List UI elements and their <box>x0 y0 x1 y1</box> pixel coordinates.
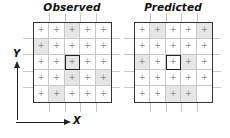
grid-extension-line <box>49 13 50 22</box>
grid-extension-line <box>124 87 134 88</box>
focus-cell: + <box>65 55 80 71</box>
grid-cell: + <box>80 86 95 102</box>
grid-cell: + <box>96 86 111 102</box>
grid-cell: + <box>96 70 111 86</box>
grid-cell: + <box>135 23 150 39</box>
grid-cell: + <box>80 55 95 71</box>
grid-cell: + <box>150 39 165 55</box>
grid-cell: + <box>166 86 181 102</box>
grid-cell: + <box>197 39 212 55</box>
grid-cell: + <box>49 86 64 102</box>
grid-extension-line <box>23 71 33 72</box>
grid-cell: + <box>65 23 80 39</box>
grid-cell: + <box>96 55 111 71</box>
grid-cell: + <box>135 86 150 102</box>
grid-extension-line <box>80 13 81 22</box>
grid-extension-line <box>213 38 221 39</box>
grid-cell: + <box>181 55 196 71</box>
grid-extension-line <box>23 87 33 88</box>
grid-cell: + <box>80 23 95 39</box>
grid-extension-line <box>197 13 198 22</box>
observed-title: Observed <box>27 1 117 13</box>
grid-cell: + <box>181 86 196 102</box>
grid-cell: + <box>34 86 49 102</box>
grid-extension-line <box>166 103 167 112</box>
grid-cell: + <box>49 39 64 55</box>
grid-cell: + <box>181 70 196 86</box>
grid-extension-line <box>166 13 167 22</box>
grid-cell: + <box>181 39 196 55</box>
predicted-grid: ++++++++++++++++++++++++ <box>134 22 213 103</box>
grid-cell: + <box>34 23 49 39</box>
grid-extension-line <box>124 71 134 72</box>
grid-cell: + <box>34 70 49 86</box>
grid-cell: + <box>34 55 49 71</box>
grid-cell: + <box>49 55 64 71</box>
grid-extension-line <box>150 13 151 22</box>
x-axis-label: X <box>73 115 81 126</box>
y-axis-arrow <box>17 66 18 120</box>
x-arrowhead-icon <box>64 119 71 125</box>
grid-extension-line <box>112 38 120 39</box>
grid-cell: + <box>135 39 150 55</box>
grid-extension-line <box>96 103 97 112</box>
grid-cell: + <box>197 70 212 86</box>
grid-extension-line <box>65 103 66 112</box>
grid-extension-line <box>112 54 120 55</box>
grid-cell: + <box>49 23 64 39</box>
grid-cell: + <box>197 55 212 71</box>
grid-cell: + <box>80 70 95 86</box>
grid-cell: + <box>65 39 80 55</box>
grid-cell: + <box>150 86 165 102</box>
grid-extension-line <box>65 13 66 22</box>
grid-cell: + <box>166 23 181 39</box>
predicted-title: Predicted <box>128 1 218 13</box>
grid-cell: + <box>80 39 95 55</box>
grid-cell: + <box>135 55 150 71</box>
grid-extension-line <box>197 103 198 112</box>
grid-extension-line <box>80 103 81 112</box>
grid-extension-line <box>23 54 33 55</box>
grid-cell: + <box>150 23 165 39</box>
grid-cell: + <box>181 23 196 39</box>
grid-extension-line <box>181 13 182 22</box>
grid-extension-line <box>112 87 120 88</box>
grid-extension-line <box>124 38 134 39</box>
y-axis-label: Y <box>13 48 20 59</box>
grid-cell: + <box>96 23 111 39</box>
grid-cell: + <box>166 70 181 86</box>
grid-extension-line <box>112 71 120 72</box>
focus-cell: + <box>166 55 181 71</box>
grid-extension-line <box>181 103 182 112</box>
grid-cell: + <box>96 39 111 55</box>
grid-cell: + <box>65 86 80 102</box>
grid-cell: + <box>49 70 64 86</box>
grid-extension-line <box>23 38 33 39</box>
grid-cell: + <box>135 70 150 86</box>
grid-extension-line <box>213 87 221 88</box>
observed-grid: +++++++++++++++++++++++++ <box>33 22 112 103</box>
grid-extension-line <box>124 54 134 55</box>
grid-cell: + <box>150 70 165 86</box>
grid-extension-line <box>213 54 221 55</box>
grid-cell: + <box>34 39 49 55</box>
grid-extension-line <box>213 71 221 72</box>
grid-cell <box>197 86 212 102</box>
grid-cell: + <box>197 23 212 39</box>
grid-cell: + <box>166 39 181 55</box>
grid-extension-line <box>49 103 50 112</box>
x-axis-arrow <box>16 122 66 123</box>
grid-cell: + <box>150 55 165 71</box>
grid-extension-line <box>96 13 97 22</box>
grid-cell: + <box>65 70 80 86</box>
grid-extension-line <box>150 103 151 112</box>
